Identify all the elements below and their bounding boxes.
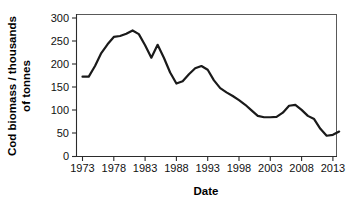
x-tick-label-1983: 1983 <box>133 162 157 174</box>
chart-figure: 300 250 200 150 100 50 0 1973 1978 1983 … <box>0 0 349 206</box>
x-tick-label-2013: 2013 <box>321 162 345 174</box>
x-tick-label-1993: 1993 <box>195 162 219 174</box>
y-axis-title-line2: of tonnes <box>20 60 32 112</box>
cod-biomass-series-line <box>83 30 340 135</box>
y-tick-label-100: 100 <box>51 104 69 116</box>
y-tick-label-300: 300 <box>51 12 69 24</box>
x-tick-label-2008: 2008 <box>289 162 313 174</box>
y-tick-label-50: 50 <box>57 127 69 139</box>
x-tick-marks <box>83 157 333 162</box>
x-tick-label-2003: 2003 <box>258 162 282 174</box>
y-tick-label-0: 0 <box>63 150 69 162</box>
x-tick-label-1988: 1988 <box>164 162 188 174</box>
cod-biomass-line-chart: 300 250 200 150 100 50 0 1973 1978 1983 … <box>0 0 349 206</box>
y-axis-title-line1: Cod biomass / thousands <box>6 16 18 156</box>
x-axis-title: Date <box>194 185 219 197</box>
x-tick-label-1998: 1998 <box>227 162 251 174</box>
x-tick-label-1978: 1978 <box>102 162 126 174</box>
y-tick-label-200: 200 <box>51 58 69 70</box>
x-tick-label-1973: 1973 <box>70 162 94 174</box>
y-tick-label-150: 150 <box>51 81 69 93</box>
y-tick-label-250: 250 <box>51 35 69 47</box>
y-tick-marks <box>72 18 77 157</box>
